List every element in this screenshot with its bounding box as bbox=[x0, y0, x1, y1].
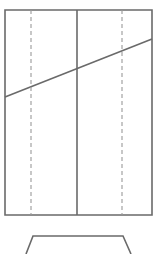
diagram-canvas: Elevation line drawing with sill bracket bbox=[0, 0, 159, 254]
diagram-background bbox=[0, 0, 159, 254]
line-drawing-svg: Elevation line drawing with sill bracket bbox=[0, 0, 159, 254]
